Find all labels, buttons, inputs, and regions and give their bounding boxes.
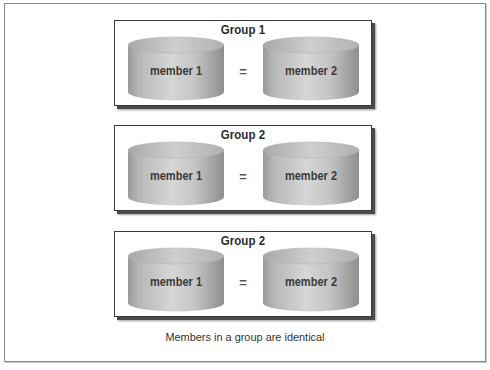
group-box-1: Group 1 member 1 = member 2 <box>114 20 372 106</box>
group-title: Group 1 <box>125 23 361 37</box>
group-title: Group 2 <box>125 234 361 248</box>
equals-sign: = <box>235 64 251 79</box>
equals-sign: = <box>235 169 251 184</box>
member-2-disk: member 2 <box>262 141 360 207</box>
group-box-3: Group 2 member 1 = member 2 <box>114 231 372 317</box>
equals-sign: = <box>235 275 251 290</box>
group-title: Group 2 <box>125 128 361 142</box>
figure-caption: Members in a group are identical <box>12 331 478 343</box>
member-label: member 2 <box>266 169 356 183</box>
member-1-disk: member 1 <box>127 36 225 102</box>
member-2-disk: member 2 <box>262 36 360 102</box>
member-label: member 1 <box>131 275 221 289</box>
member-label: member 2 <box>266 64 356 78</box>
member-1-disk: member 1 <box>127 247 225 313</box>
member-label: member 1 <box>131 169 221 183</box>
member-label: member 2 <box>266 275 356 289</box>
member-1-disk: member 1 <box>127 141 225 207</box>
group-box-2: Group 2 member 1 = member 2 <box>114 125 372 211</box>
member-label: member 1 <box>131 64 221 78</box>
member-2-disk: member 2 <box>262 247 360 313</box>
